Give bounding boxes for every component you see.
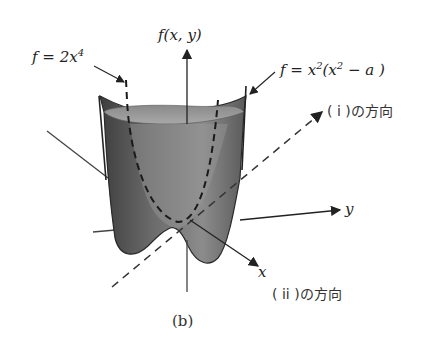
- f-axis-label: f(x, y): [158, 26, 202, 44]
- neg-y-axis: [47, 131, 108, 178]
- quartic-annotation: f = 2x4: [32, 47, 84, 66]
- saddle-mid: (x: [323, 61, 337, 79]
- quartic-lhs: f = 2x: [32, 48, 78, 66]
- saddle-rhs: − a ): [343, 61, 385, 79]
- surface-diagram: f(x, y) y x f = 2x4 f = x2(x2 − a ) ( i …: [0, 0, 445, 340]
- quartic-pointer: [94, 66, 124, 82]
- y-axis-label: y: [345, 200, 353, 218]
- y-axis: [240, 210, 340, 220]
- quartic-exp: 4: [78, 47, 84, 58]
- direction-ii-label: ( ii )の方向: [272, 283, 342, 303]
- x-axis-label: x: [258, 263, 266, 281]
- figure-caption: (b): [172, 312, 193, 330]
- direction-i-label: ( i )の方向: [327, 100, 393, 120]
- saddle-annotation: f = x2(x2 − a ): [280, 60, 385, 79]
- saddle-lhs: f = x: [280, 61, 316, 79]
- saddle-pointer: [250, 72, 275, 94]
